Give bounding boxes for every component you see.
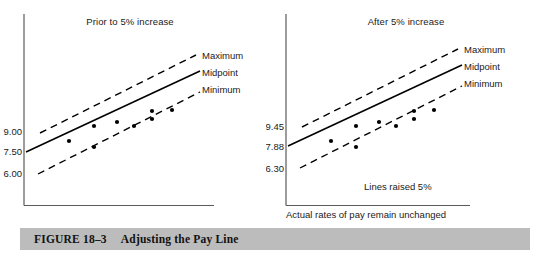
minimum-line-prior (38, 92, 200, 174)
minimum-line-after (300, 86, 462, 168)
data-point (412, 109, 416, 113)
y-tick-label-low-after: 6.30 (266, 163, 284, 174)
maximum-line-after (302, 49, 458, 127)
legend-label-maximum-after: Maximum (464, 44, 505, 55)
y-tick-label-mid-after: 7.88 (266, 141, 284, 152)
data-point (377, 120, 381, 124)
chart-panel-after: After 5% increase 9.45 (266, 0, 542, 226)
data-points-prior (67, 108, 174, 149)
figure-caption-title: Adjusting the Pay Line (107, 233, 239, 245)
legend-label-midpoint-prior: Midpoint (202, 67, 238, 78)
midpoint-line-prior (26, 71, 200, 152)
y-tick-label-high-after: 9.45 (266, 121, 284, 132)
midpoint-line-after (288, 65, 462, 146)
data-point (329, 139, 333, 143)
data-point (394, 124, 398, 128)
figure-caption-number: FIGURE 18–3 (20, 233, 107, 245)
legend-label-minimum-after: Minimum (464, 78, 503, 89)
data-point (354, 145, 358, 149)
data-point (354, 124, 358, 128)
data-point (412, 117, 416, 121)
data-point (132, 124, 136, 128)
data-point (115, 120, 119, 124)
chart-panel-prior: Prior to 5% increase 9 (0, 0, 276, 226)
data-point (170, 108, 174, 112)
figure-caption-band: FIGURE 18–3 Adjusting the Pay Line (20, 228, 530, 250)
chart-plot-after: 9.45 7.88 6.30 Maximum Midpoint Minimum … (266, 0, 542, 226)
footnote-actual-rates: Actual rates of pay remain unchanged (286, 209, 446, 220)
legend-label-maximum-prior: Maximum (202, 50, 243, 61)
data-point (67, 139, 71, 143)
figure-container: Prior to 5% increase 9 (0, 0, 552, 258)
legend-label-minimum-prior: Minimum (202, 84, 241, 95)
y-tick-label-high-prior: 9.00 (4, 126, 23, 137)
data-point (432, 108, 436, 112)
legend-label-midpoint-after: Midpoint (464, 61, 500, 72)
data-point (92, 124, 96, 128)
y-tick-label-low-prior: 6.00 (4, 168, 23, 179)
data-point (150, 117, 154, 121)
chart-plot-prior: 9.00 7.50 6.00 Maximum Midpoint Minimum (0, 0, 276, 226)
data-point (92, 145, 96, 149)
annotation-lines-raised: Lines raised 5% (364, 181, 432, 192)
data-point (150, 109, 154, 113)
data-points-after (329, 108, 436, 149)
y-tick-label-mid-prior: 7.50 (4, 146, 23, 157)
